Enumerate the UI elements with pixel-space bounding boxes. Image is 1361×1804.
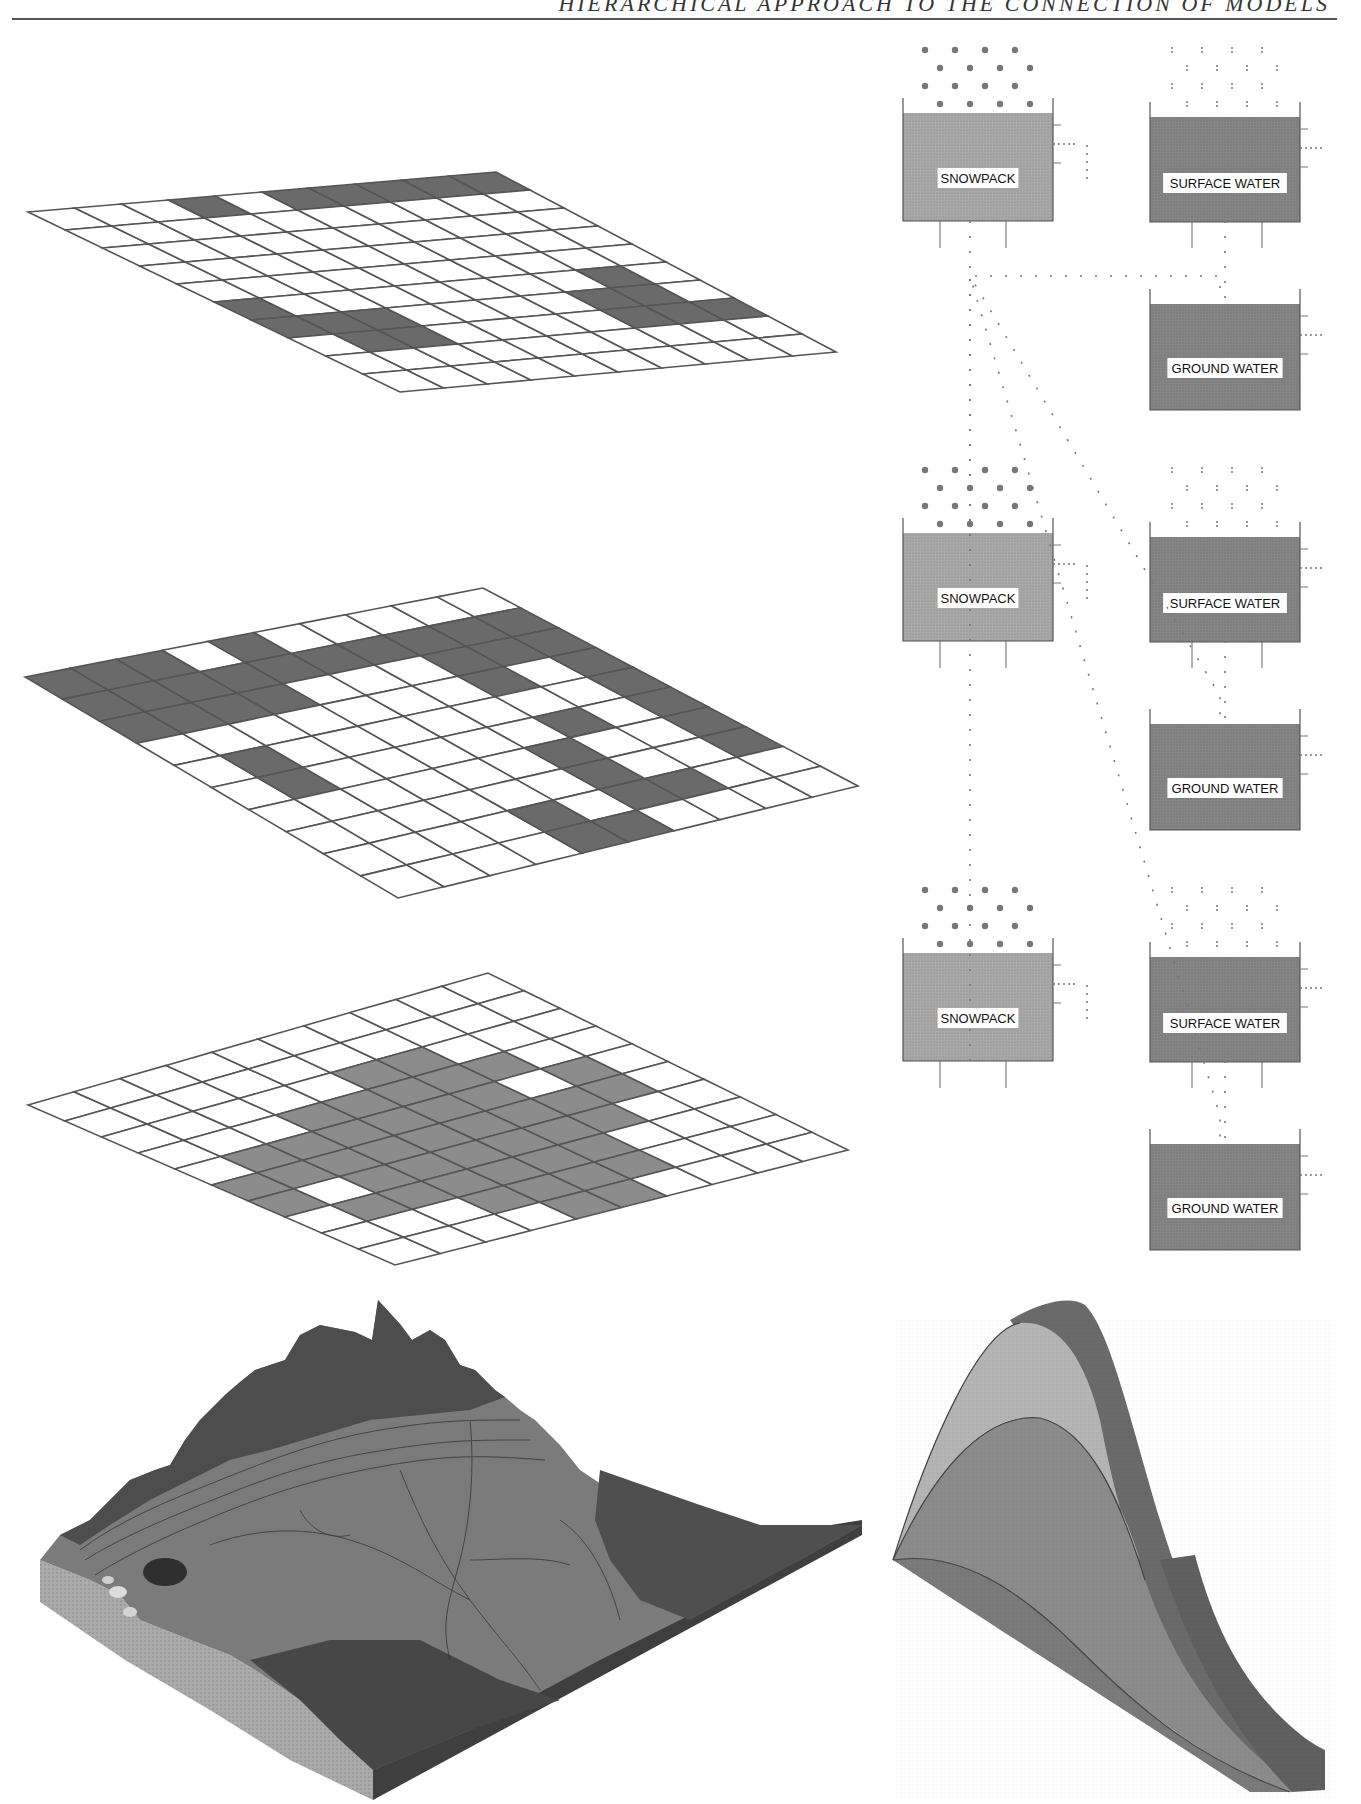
stacked-hydrograph: [0, 0, 1361, 1804]
